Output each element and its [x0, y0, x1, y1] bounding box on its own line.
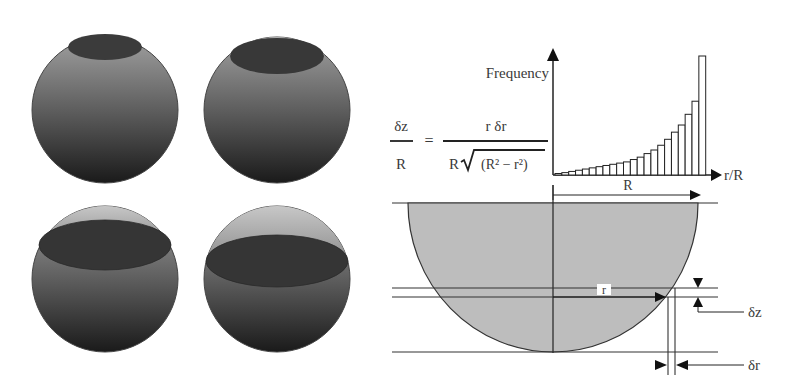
radius-label: r	[602, 283, 606, 297]
eq-lhs-denominator: R	[396, 156, 406, 172]
x-axis-label: r/R	[724, 167, 743, 183]
histogram-bar	[589, 168, 596, 175]
hemisphere-diagram: r δz δr	[392, 185, 762, 375]
histogram-bar	[617, 163, 624, 175]
histogram-bar	[651, 150, 658, 175]
equation: δz R = r δr R (R² − r²)	[390, 118, 548, 173]
histogram-bar	[610, 164, 617, 175]
y-axis-label: Frequency	[486, 65, 550, 81]
histogram-bar	[665, 139, 672, 175]
histogram-bar	[603, 165, 610, 175]
eq-lhs-numerator: δz	[394, 118, 408, 134]
sphere-bottom-right	[200, 205, 360, 352]
histogram-bar	[644, 154, 651, 175]
histogram-bar	[562, 173, 569, 175]
sphere-cap	[206, 235, 348, 287]
dz-arrow-up-icon	[693, 297, 703, 307]
histogram-bar	[692, 101, 699, 175]
dz-label: δz	[748, 304, 762, 320]
sphere-cap	[39, 220, 171, 270]
histogram-bar	[630, 160, 637, 175]
dr-arrow-right-icon	[655, 360, 667, 370]
sphere-cap	[230, 38, 324, 74]
histogram-bar	[582, 169, 589, 175]
histogram-bars	[555, 56, 706, 175]
histogram-bar	[637, 157, 644, 175]
sphere-cap	[68, 34, 142, 60]
dr-label: δr	[748, 357, 760, 373]
histogram-bar	[596, 167, 603, 175]
eq-rhs-denominator-prefix: R	[449, 156, 459, 172]
histogram-bar	[678, 125, 685, 175]
histogram-bar	[699, 56, 706, 175]
figure: δz R = r δr R (R² − r²) Frequency r/R R	[0, 0, 791, 391]
histogram-bar	[555, 174, 562, 176]
dz-arrow-down-icon	[693, 278, 703, 288]
eq-rhs-radicand: (R² − r²)	[481, 157, 528, 173]
histogram-bar	[658, 145, 665, 175]
eq-rhs-numerator: r δr	[486, 118, 507, 134]
histogram-bar	[671, 132, 678, 175]
histogram: Frequency r/R R	[486, 48, 743, 200]
eq-equals: =	[424, 132, 433, 149]
span-label-r: R	[623, 178, 633, 193]
histogram-bar	[576, 170, 583, 175]
histogram-bar	[685, 114, 692, 175]
histogram-bar	[624, 162, 631, 175]
span-arrow-icon	[690, 190, 701, 200]
sphere-top-left	[32, 34, 178, 183]
histogram-bar	[569, 171, 576, 175]
y-axis-arrow-icon	[547, 48, 559, 61]
sphere-top-right	[204, 33, 350, 183]
x-axis-arrow-icon	[711, 169, 722, 181]
sphere-bottom-left	[30, 205, 180, 352]
